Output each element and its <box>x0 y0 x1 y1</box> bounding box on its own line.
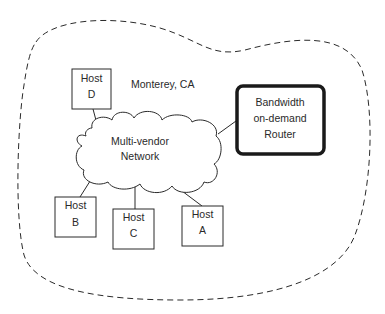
link-router <box>218 121 236 134</box>
link-host-a <box>182 191 202 206</box>
router-label-line1: Bandwidth <box>255 96 304 108</box>
router-label-line3: Router <box>264 128 296 140</box>
host-a: Host A <box>182 206 223 246</box>
host-c: Host C <box>113 209 154 249</box>
host-d: Host D <box>72 69 111 109</box>
host-b-label-line1: Host <box>65 199 87 211</box>
network-diagram: Multi-vendor Network Monterey, CA Bandwi… <box>0 0 385 314</box>
host-b: Host B <box>55 197 96 237</box>
host-d-label-line2: D <box>88 88 96 100</box>
router-label-line2: on-demand <box>253 112 306 124</box>
host-a-label-line1: Host <box>192 208 214 220</box>
network-label-line2: Network <box>121 150 160 162</box>
host-c-label-line2: C <box>130 227 138 239</box>
region-label: Monterey, CA <box>131 78 194 90</box>
network-label-line1: Multi-vendor <box>111 135 169 147</box>
host-b-label-line2: B <box>72 216 79 228</box>
host-d-label-line1: Host <box>81 72 103 84</box>
host-a-label-line2: A <box>199 224 206 236</box>
host-c-label-line1: Host <box>123 211 145 223</box>
